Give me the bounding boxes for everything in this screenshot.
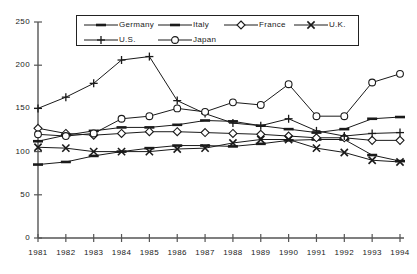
data-point-us	[396, 129, 404, 137]
data-point-france	[201, 129, 209, 137]
legend-item-uk[interactable]: U.K.	[293, 17, 346, 32]
data-point-japan	[146, 113, 153, 120]
legend-label: Japan	[193, 35, 216, 44]
y-axis-tick-label: 150	[0, 103, 30, 112]
legend-item-germany[interactable]: Germany	[83, 17, 154, 32]
legend-symbol-dash-icon	[83, 19, 119, 31]
data-point-japan	[285, 81, 292, 88]
legend-symbol-cross-icon	[293, 19, 329, 31]
data-point-japan	[313, 113, 320, 120]
data-point-japan	[172, 36, 179, 43]
legend-label: U.K.	[329, 20, 346, 29]
data-point-japan	[174, 105, 181, 112]
data-point-france	[145, 128, 153, 136]
data-point-us	[62, 93, 70, 101]
data-point-us	[173, 97, 181, 105]
legend-item-italy[interactable]: Italy	[157, 17, 209, 32]
legend-item-us[interactable]: U.S.	[83, 32, 136, 47]
data-point-japan	[35, 131, 42, 138]
legend-label: France	[259, 20, 286, 29]
series-us	[34, 53, 404, 140]
legend-symbol-dash-icon	[157, 19, 193, 31]
data-point-us	[257, 122, 265, 130]
legend-label: Italy	[193, 20, 209, 29]
data-point-us	[97, 36, 105, 44]
legend-row: GermanyItalyFranceU.K.	[77, 17, 358, 32]
data-point-france	[237, 21, 245, 29]
data-point-japan	[202, 108, 209, 115]
series-germany	[33, 117, 405, 141]
series-lines	[33, 53, 405, 166]
data-point-france	[229, 129, 237, 137]
data-point-us	[145, 53, 153, 61]
y-axis-tick-label: 0	[0, 233, 30, 242]
legend-label: U.S.	[119, 35, 136, 44]
data-point-japan	[257, 102, 264, 109]
data-point-japan	[369, 79, 376, 86]
legend-symbol-diamond-icon	[223, 19, 259, 31]
legend-symbol-circle-icon	[157, 34, 193, 46]
legend-symbol-plus-icon	[83, 34, 119, 46]
y-axis-tick-label: 250	[0, 17, 30, 26]
x-axis-tick-label: 1994	[384, 248, 416, 257]
data-point-japan	[62, 133, 69, 140]
y-axis-tick-label: 100	[0, 147, 30, 156]
series-italy	[33, 140, 405, 165]
legend-label: Germany	[119, 20, 154, 29]
legend-row: U.S.Japan	[77, 32, 358, 47]
data-point-japan	[341, 113, 348, 120]
data-point-france	[368, 136, 376, 144]
data-point-japan	[397, 70, 404, 77]
data-point-france	[173, 128, 181, 136]
data-point-japan	[230, 99, 237, 106]
data-point-japan	[90, 130, 97, 137]
data-point-us	[368, 129, 376, 137]
legend-item-france[interactable]: France	[223, 17, 286, 32]
legend-item-japan[interactable]: Japan	[157, 32, 216, 47]
y-axis-tick-label: 50	[0, 190, 30, 199]
line-chart: 050100150200250 198119821983198419851986…	[0, 0, 417, 274]
data-point-us	[285, 115, 293, 123]
data-point-japan	[118, 115, 125, 122]
legend: GermanyItalyFranceU.K.U.S.Japan	[76, 15, 359, 46]
data-point-france	[396, 136, 404, 144]
y-axis-tick-label: 200	[0, 60, 30, 69]
series-line	[38, 57, 400, 136]
data-point-france	[118, 129, 126, 137]
data-point-us	[34, 104, 42, 112]
